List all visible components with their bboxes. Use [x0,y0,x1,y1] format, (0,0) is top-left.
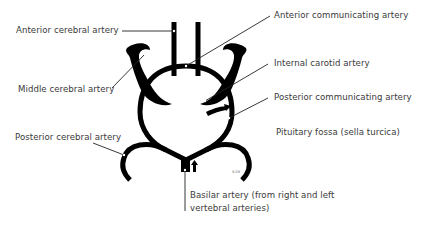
middle-cerebral-artery-right [200,43,246,105]
label-internal-carotid-artery: Internal carotid artery [274,58,370,69]
label-basilar-artery-line2: vertebral arteries) [190,203,269,214]
marker-middle-cerebral [144,53,146,55]
label-posterior-communicating-artery: Posterior communicating artery [274,92,412,103]
label-anterior-cerebral-artery: Anterior cerebral artery [16,25,119,36]
posterior-cerebral-artery-right [206,144,249,180]
label-anterior-communicating-artery: Anterior communicating artery [274,10,408,21]
basilar-flow-arrow [191,160,198,172]
marker-posterior-communicating [228,117,230,119]
leader-posterior-cerebral [93,143,124,155]
marker-anterior-communicating [185,65,187,67]
marker-posterior-cerebral [123,154,125,156]
middle-cerebral-artery-left [126,43,172,105]
marker-internal-carotid [204,100,206,102]
internal-carotid-artery-stub [206,106,228,116]
leader-posterior-communicating [229,98,268,118]
marker-basilar [184,169,186,171]
marker-anterior-cerebral [173,30,175,32]
label-basilar-artery-line1: Basilar artery (from right and left [190,190,334,201]
label-pituitary-fossa: Pituitary fossa (sella turcica) [276,127,400,138]
figure-mark: 5/29 [232,170,240,174]
label-posterior-cerebral-artery: Posterior cerebral artery [15,132,121,143]
posterior-cerebral-artery-left [123,144,166,180]
label-middle-cerebral-artery: Middle cerebral artery [18,84,114,95]
